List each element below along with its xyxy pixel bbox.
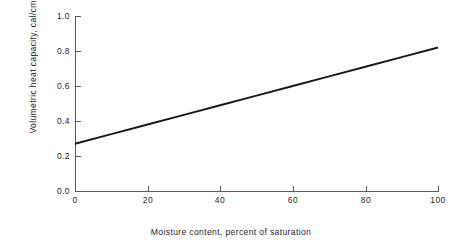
x-axis-title: Moisture content, percent of saturation: [0, 227, 462, 237]
x-axis-tick-label: 60: [273, 196, 313, 205]
x-axis-tick: [220, 186, 221, 191]
y-axis-tick: [76, 191, 81, 192]
y-axis-tick-label: 0.6: [44, 82, 70, 91]
x-axis-tick: [293, 186, 294, 191]
y-axis-tick: [76, 16, 81, 17]
data-line-volumetric-heat-capacity: [75, 48, 438, 144]
x-axis-tick-label: 20: [128, 196, 168, 205]
y-axis-tick: [76, 86, 81, 87]
x-axis-tick-label: 80: [346, 196, 386, 205]
chart-figure: 1.0 0.8 0.6 0.4 0.2 0.0 0 20 40 60 80 10…: [0, 0, 462, 250]
y-axis-tick-label: 0.8: [44, 47, 70, 56]
y-axis-tick-label: 1.0: [44, 12, 70, 21]
x-axis-tick: [366, 186, 367, 191]
x-axis-tick: [438, 186, 439, 191]
x-axis-tick-label: 40: [200, 196, 240, 205]
y-axis-tick: [76, 121, 81, 122]
y-axis-title: Volumetric heat capacity, cal/cm3: [28, 0, 38, 160]
x-axis-line: [75, 191, 439, 192]
y-axis-line: [75, 16, 76, 191]
y-axis-tick-label: 0.0: [44, 187, 70, 196]
x-axis-tick-label: 0: [55, 196, 95, 205]
y-axis-tick-label: 0.4: [44, 117, 70, 126]
y-axis-title-text: Volumetric heat capacity, cal/cm: [28, 0, 38, 133]
x-axis-tick-label: 100: [418, 196, 458, 205]
y-axis-tick: [76, 51, 81, 52]
x-axis-tick: [148, 186, 149, 191]
y-axis-tick: [76, 156, 81, 157]
y-axis-tick-label: 0.2: [44, 152, 70, 161]
x-axis-tick: [75, 186, 76, 191]
